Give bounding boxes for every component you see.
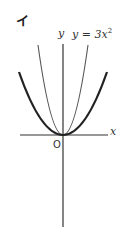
y-axis-label: y — [58, 28, 64, 39]
parabola-diagram: イ y y = 3x2 x O — [0, 0, 125, 227]
panel-label: イ — [16, 14, 29, 27]
curve-equation-exponent: 2 — [108, 27, 112, 35]
origin-label: O — [53, 140, 61, 150]
x-axis-label: x — [110, 126, 116, 137]
curve-equation-label: y = 3x2 — [72, 28, 112, 40]
curve-equation-base: y = 3x — [72, 28, 108, 41]
